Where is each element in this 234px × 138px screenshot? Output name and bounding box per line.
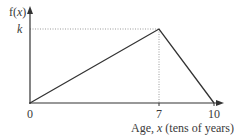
- y-axis-arrow-icon: [27, 6, 33, 14]
- x-tick-7: 7: [156, 108, 162, 120]
- x-tick-0: 0: [27, 108, 33, 120]
- y-tick-k: k: [17, 23, 22, 35]
- pdf-line: [30, 29, 214, 103]
- x-axis-arrow-icon: [216, 100, 224, 106]
- y-axis-label: f(x): [9, 6, 26, 18]
- y-axis-label-f: f(: [9, 5, 17, 19]
- x-axis-label-suffix: (tens of years): [162, 121, 234, 135]
- x-axis-label: Age, x (tens of years): [131, 122, 234, 134]
- chart-canvas: [0, 0, 234, 138]
- x-tick-10: 10: [208, 108, 220, 120]
- y-axis-label-close: ): [22, 5, 26, 19]
- x-axis-label-prefix: Age,: [131, 121, 157, 135]
